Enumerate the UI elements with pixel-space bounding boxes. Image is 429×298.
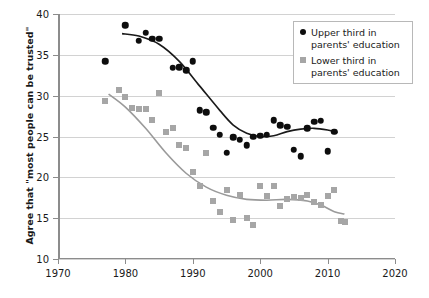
data-point bbox=[116, 87, 122, 93]
legend-item-lower-third: Lower third in parents' education bbox=[300, 55, 407, 78]
data-point bbox=[217, 209, 223, 215]
data-point bbox=[331, 128, 338, 135]
data-point bbox=[223, 150, 230, 157]
data-point bbox=[210, 124, 217, 131]
legend-item-upper-third: Upper third in parents' education bbox=[300, 27, 407, 50]
data-point bbox=[176, 142, 182, 148]
data-point bbox=[122, 22, 129, 29]
gridline-y-10 bbox=[58, 259, 395, 260]
data-point bbox=[257, 183, 263, 189]
data-point bbox=[224, 187, 230, 193]
data-point bbox=[264, 132, 271, 139]
data-point bbox=[271, 183, 277, 189]
data-point bbox=[230, 217, 236, 223]
x-axis-line bbox=[58, 258, 395, 260]
circle-marker-icon bbox=[300, 29, 306, 35]
data-point bbox=[143, 106, 149, 112]
legend-swatch-circle bbox=[300, 29, 311, 35]
data-point bbox=[163, 129, 169, 135]
data-point bbox=[190, 58, 197, 65]
y-tick-label-35: 35 bbox=[36, 49, 49, 60]
y-tick-label-20: 20 bbox=[36, 172, 49, 183]
y-tick-label-40: 40 bbox=[36, 9, 49, 20]
data-point bbox=[250, 222, 256, 228]
y-tick-15 bbox=[53, 218, 58, 219]
data-point bbox=[237, 137, 244, 144]
trust-by-parents-education-chart: Agree that "most people can be trusted" … bbox=[0, 0, 429, 298]
x-tick-label-1990: 1990 bbox=[180, 268, 205, 279]
legend-label-lower-third: Lower third in parents' education bbox=[311, 55, 400, 78]
legend-label-lower-line2: parents' education bbox=[311, 67, 400, 78]
data-point bbox=[203, 150, 209, 156]
data-point bbox=[210, 198, 216, 204]
data-point bbox=[122, 94, 128, 100]
data-point bbox=[270, 117, 277, 124]
x-tick-1980 bbox=[125, 259, 126, 264]
data-point bbox=[291, 146, 298, 153]
x-tick-2010 bbox=[328, 259, 329, 264]
data-point bbox=[331, 187, 337, 193]
data-point bbox=[291, 194, 297, 200]
x-tick-2020 bbox=[395, 259, 396, 264]
x-tick-1970 bbox=[58, 259, 59, 264]
data-point bbox=[169, 65, 176, 72]
data-point bbox=[297, 153, 304, 160]
data-point bbox=[142, 30, 149, 37]
y-tick-label-30: 30 bbox=[36, 90, 49, 101]
data-point bbox=[318, 202, 324, 208]
x-tick-label-1980: 1980 bbox=[113, 268, 138, 279]
data-point bbox=[237, 192, 243, 198]
data-point bbox=[257, 132, 264, 139]
y-tick-label-10: 10 bbox=[36, 254, 49, 265]
x-tick-label-2020: 2020 bbox=[382, 268, 407, 279]
data-point bbox=[136, 106, 142, 112]
legend-label-upper-third: Upper third in parents' education bbox=[311, 27, 400, 50]
data-point bbox=[190, 169, 196, 175]
data-point bbox=[243, 142, 250, 149]
data-point bbox=[217, 132, 224, 139]
data-point bbox=[149, 117, 155, 123]
y-tick-35 bbox=[53, 55, 58, 56]
data-point bbox=[183, 145, 189, 151]
data-point bbox=[342, 219, 348, 225]
data-point bbox=[230, 134, 237, 141]
data-point bbox=[244, 215, 250, 221]
data-point bbox=[102, 98, 108, 104]
data-point bbox=[183, 67, 190, 74]
legend-label-upper-line2: parents' education bbox=[311, 39, 400, 50]
data-point bbox=[311, 119, 318, 126]
x-tick-label-2000: 2000 bbox=[247, 268, 272, 279]
data-point bbox=[304, 192, 310, 198]
legend-swatch-square bbox=[300, 57, 311, 63]
y-tick-20 bbox=[53, 177, 58, 178]
y-tick-25 bbox=[53, 137, 58, 138]
data-point bbox=[102, 58, 109, 65]
data-point bbox=[298, 195, 304, 201]
data-point bbox=[170, 125, 176, 131]
data-point bbox=[311, 199, 317, 205]
data-point bbox=[156, 35, 163, 42]
data-point bbox=[277, 203, 283, 209]
data-point bbox=[129, 105, 135, 111]
data-point bbox=[318, 118, 325, 125]
data-point bbox=[304, 125, 311, 132]
y-axis-label: Agree that "most people can be trusted" bbox=[24, 21, 35, 251]
data-point bbox=[284, 123, 291, 130]
y-tick-label-15: 15 bbox=[36, 213, 49, 224]
data-point bbox=[264, 193, 270, 199]
data-point bbox=[250, 133, 257, 140]
x-tick-label-2010: 2010 bbox=[315, 268, 340, 279]
legend-label-upper-line1: Upper third in bbox=[311, 27, 377, 38]
data-point bbox=[136, 38, 143, 45]
y-tick-40 bbox=[53, 14, 58, 15]
square-marker-icon bbox=[300, 57, 306, 63]
data-point bbox=[277, 122, 284, 129]
y-tick-label-25: 25 bbox=[36, 131, 49, 142]
x-tick-label-1970: 1970 bbox=[45, 268, 70, 279]
y-tick-30 bbox=[53, 96, 58, 97]
y-axis-line bbox=[58, 14, 60, 259]
legend-label-lower-line1: Lower third in bbox=[311, 55, 376, 66]
data-point bbox=[149, 35, 156, 42]
data-point bbox=[203, 109, 210, 116]
data-point bbox=[325, 193, 331, 199]
